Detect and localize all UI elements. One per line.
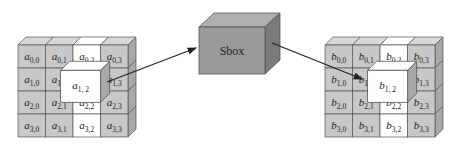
input-state-grid: a0,0a0,1a0,2a0,3a1,0a1,1a1,3a2,0a2,1a2,2… xyxy=(18,37,136,137)
sbox-label: Sbox xyxy=(220,44,245,58)
output-state-grid: b0,0b0,1b0,2b0,3b1,0b1,1b1,3b2,0b2,1b2,2… xyxy=(325,37,443,137)
diagram-canvas: a0,0a0,1a0,2a0,3a1,0a1,1a1,3a2,0a2,1a2,2… xyxy=(0,0,461,148)
sbox-cube: Sbox xyxy=(199,13,280,74)
